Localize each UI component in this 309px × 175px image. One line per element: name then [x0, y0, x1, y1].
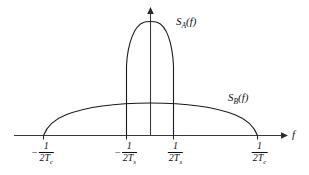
fraction: 1 2Tc — [252, 141, 268, 166]
x-tick-label-pos-1-2Ts: 1 2Ts — [167, 141, 183, 166]
x-axis-arrowhead — [281, 132, 288, 139]
x-axis-label: f — [292, 129, 295, 140]
fraction-numerator: 1 — [42, 141, 51, 152]
fraction-numerator: 1 — [255, 141, 264, 152]
x-tick-label-neg-1-2Ts: − 1 2Ts — [115, 141, 137, 166]
fraction-denominator-sub: c — [263, 158, 266, 166]
fraction-denominator-sub: s — [133, 158, 136, 166]
fraction-denominator: 2Tc — [38, 153, 54, 166]
tick-sign: − — [32, 147, 38, 159]
fraction-numerator: 1 — [171, 141, 180, 152]
spectral-density-figure: SA(f) SB(f) f − 1 2Tc − 1 2Ts 1 2Ts — [0, 0, 309, 175]
x-tick-label-pos-1-2Tc: 1 2Tc — [251, 141, 268, 166]
fraction-denominator: 2Ts — [168, 153, 183, 166]
fraction-denominator-main: 2T — [169, 152, 180, 163]
curve-label-s-a-arg: (f) — [186, 15, 196, 27]
x-tick-label-neg-1-2Tc: − 1 2Tc — [32, 141, 54, 166]
fraction: 1 2Ts — [168, 141, 183, 166]
curve-label-s-b: SB(f) — [228, 92, 248, 106]
fraction-denominator-sub: c — [50, 158, 53, 166]
fraction-denominator: 2Ts — [122, 153, 137, 166]
fraction: 1 2Tc — [38, 141, 54, 166]
fraction-denominator-main: 2T — [123, 152, 134, 163]
tick-sign: − — [115, 147, 121, 159]
curve-label-s-a: SA(f) — [176, 16, 196, 30]
curve-label-s-b-arg: (f) — [238, 91, 248, 103]
fraction-denominator-sub: s — [179, 158, 182, 166]
fraction-denominator-main: 2T — [39, 152, 50, 163]
y-axis-arrowhead — [147, 7, 154, 14]
fraction-numerator: 1 — [125, 141, 134, 152]
fraction-denominator: 2Tc — [252, 153, 268, 166]
fraction-denominator-main: 2T — [253, 152, 264, 163]
fraction: 1 2Ts — [122, 141, 137, 166]
